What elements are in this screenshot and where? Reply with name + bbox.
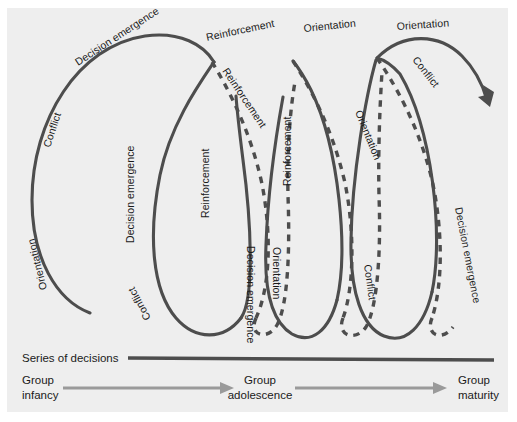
spiral-loop-2: [153, 62, 241, 335]
lbl-reinforcement-3: Reinforcement: [199, 148, 211, 218]
lbl-orientation-2: Orientation: [271, 247, 283, 300]
exit-arrowhead: [478, 85, 494, 107]
series-of-decisions-label: Series of decisions: [22, 352, 119, 364]
lbl-decision-emergence-4: Decision emergence: [453, 206, 483, 304]
spiral-loop-5: [293, 61, 352, 318]
spiral-diagram-svg: OrientationConflictDecision emergenceDec…: [0, 0, 517, 422]
phase-arrow-2-head: [433, 382, 447, 394]
spiral-loop-7-bottom: [430, 318, 453, 335]
lbl-decision-emergence-3: Decision emergence: [245, 246, 257, 344]
stage-1-line-2: infancy: [22, 389, 59, 401]
stage-2-line-1: Group: [244, 374, 276, 386]
stage-2-line-2: adolescence: [228, 389, 293, 401]
lbl-conflict-2: Conflict: [125, 285, 152, 322]
figure-container: OrientationConflictDecision emergenceDec…: [0, 0, 517, 422]
lbl-conflict-3: Conflict: [362, 264, 379, 301]
lbl-reinforcement-1: Reinforcement: [205, 17, 276, 43]
lbl-decision-emergence-2: Decision emergence: [124, 145, 136, 243]
spiral-loop-4-rise: [293, 61, 342, 300]
lbl-conflict-4: Conflict: [410, 54, 442, 90]
curve-label-layer: OrientationConflictDecision emergenceDec…: [25, 4, 484, 343]
spiral-loop-1: [32, 35, 214, 313]
lbl-reinforcement-2: Reinforcement: [220, 65, 269, 129]
lbl-orientation-3: Orientation: [303, 17, 356, 34]
stage-1-line-1: Group: [22, 374, 54, 386]
stage-3-line-2: maturity: [458, 389, 499, 401]
lbl-orientation-5: Orientation: [396, 16, 449, 32]
spiral-loop-7: [377, 58, 440, 318]
series-of-decisions-line: [128, 358, 494, 360]
spiral-loop-6-rise: [377, 58, 437, 292]
lbl-reinforcement-4: Reinforcement: [281, 116, 293, 186]
stage-3-line-1: Group: [458, 374, 490, 386]
spiral-loop-6: [351, 60, 432, 338]
